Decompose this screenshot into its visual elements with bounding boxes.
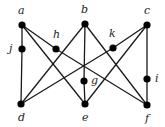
node-h [52,45,59,52]
edges [21,24,147,105]
labels: abcjhkgidef [6,3,159,125]
edge-b-g [84,24,85,81]
node-label-f: f [144,112,151,125]
node-label-d: d [18,111,25,124]
node-f [143,101,150,108]
node-k [109,44,116,51]
edge-c-k [113,25,147,48]
edge-j-d [21,49,22,104]
node-label-a: a [18,4,25,17]
node-label-b: b [81,3,88,16]
node-d [17,100,24,107]
edge-h-f [56,49,147,105]
node-j [18,45,25,52]
node-label-c: c [144,4,150,17]
node-label-i: i [155,72,159,85]
node-label-g: g [91,74,98,87]
node-label-k: k [109,27,116,40]
node-label-e: e [82,111,89,124]
node-label-h: h [53,28,60,41]
node-a [18,21,25,28]
node-i [143,75,150,82]
node-g [80,77,87,84]
node-b [81,20,88,27]
node-e [81,100,88,107]
graph-diagram: abcjhkgidef [0,0,165,127]
node-c [143,21,150,28]
node-label-j: j [6,42,13,55]
